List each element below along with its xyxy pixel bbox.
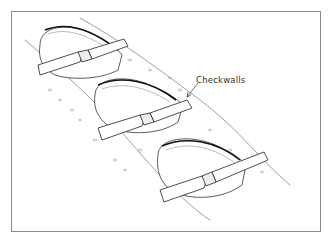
label-arrow (187, 83, 198, 97)
checkwalls-label: Checkwalls (196, 75, 245, 85)
checkwall-illustration (0, 0, 331, 245)
